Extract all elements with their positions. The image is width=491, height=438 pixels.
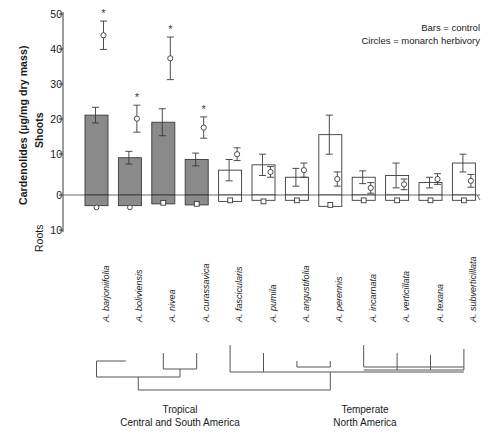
root-monarch-square[interactable]	[228, 198, 233, 203]
monarch-circle[interactable]	[201, 125, 206, 130]
monarch-circle[interactable]	[402, 182, 407, 187]
species-label: A. incarnata	[368, 274, 378, 322]
significance-asterisk: *	[101, 7, 106, 19]
monarch-circle[interactable]	[134, 116, 139, 121]
monarch-circle[interactable]	[335, 176, 340, 181]
species-label: A. fascicularis	[234, 266, 244, 322]
species-label: A. pumila	[268, 284, 278, 322]
monarch-circle[interactable]	[468, 178, 473, 183]
plot-svg: ****	[0, 0, 491, 438]
significance-asterisk: *	[135, 91, 140, 103]
region-temperate-line1: Temperate	[255, 403, 475, 416]
monarch-circle[interactable]	[101, 33, 106, 38]
root-monarch-square[interactable]	[462, 198, 467, 203]
axis-end-tick	[477, 195, 480, 200]
shoot-bar[interactable]	[85, 115, 108, 195]
species-label: A. perennis	[334, 276, 344, 322]
root-monarch-square[interactable]	[161, 200, 166, 205]
shoot-bar[interactable]	[219, 170, 242, 195]
root-monarch-square[interactable]	[295, 198, 300, 203]
region-caption-temperate: Temperate North America	[255, 403, 475, 429]
significance-asterisk: *	[168, 23, 173, 35]
species-label: A. boliviensis	[134, 269, 144, 322]
species-label: A. verticillata	[401, 271, 411, 322]
species-label: A. curassavica	[201, 263, 211, 322]
species-label: A. barjoniifolia	[101, 265, 111, 322]
significance-asterisk: *	[202, 103, 207, 115]
figure-panel: Cardenolides (µg/mg dry mass) Shoots Roo…	[0, 0, 491, 438]
monarch-circle[interactable]	[368, 185, 373, 190]
root-monarch-square[interactable]	[194, 201, 199, 206]
monarch-circle[interactable]	[168, 56, 173, 61]
monarch-circle[interactable]	[235, 152, 240, 157]
root-monarch-square[interactable]	[428, 198, 433, 203]
root-monarch-square[interactable]	[328, 203, 333, 208]
root-monarch-circle[interactable]	[94, 205, 99, 210]
region-temperate-line2: North America	[255, 416, 475, 429]
shoot-bar[interactable]	[118, 158, 141, 195]
monarch-circle[interactable]	[301, 168, 306, 173]
root-bar[interactable]	[118, 195, 141, 206]
species-label: A. nivea	[167, 289, 177, 322]
root-bar[interactable]	[85, 195, 108, 206]
root-monarch-square[interactable]	[361, 198, 366, 203]
monarch-circle[interactable]	[268, 169, 273, 174]
shoot-bar[interactable]	[185, 160, 208, 196]
species-label: A. angustifolia	[301, 265, 311, 322]
root-monarch-circle[interactable]	[127, 205, 132, 210]
root-monarch-square[interactable]	[261, 199, 266, 204]
species-label: A. texana	[435, 284, 445, 322]
root-monarch-square[interactable]	[395, 198, 400, 203]
shoot-bar[interactable]	[152, 122, 175, 195]
monarch-circle[interactable]	[435, 176, 440, 181]
species-label: A. subverticillata	[468, 256, 478, 322]
